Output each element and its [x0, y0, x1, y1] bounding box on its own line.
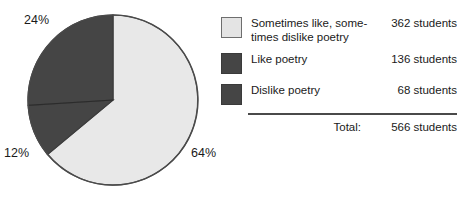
- legend-row-dislike: Dislike poetry 68 students: [221, 81, 457, 112]
- legend-row-sometimes: Sometimes like, some- times dislike poet…: [221, 14, 457, 50]
- legend-count-like: 136 students: [371, 50, 457, 67]
- pie-chart-figure: 24% 12% 64%: [0, 0, 232, 199]
- legend-label-like: Like poetry: [242, 50, 371, 67]
- legend-label-sometimes-line1: Sometimes like, some-: [251, 17, 367, 29]
- legend-total-count: 566 students: [371, 121, 457, 133]
- legend-swatch-sometimes-icon: [221, 17, 242, 38]
- pie-label-sometimes-percent: 64%: [191, 146, 216, 160]
- legend-total-divider: [248, 113, 457, 115]
- legend-count-sometimes: 362 students: [371, 14, 457, 31]
- legend-swatch-like-icon: [221, 53, 242, 74]
- legend-total-label: Total:: [334, 121, 372, 133]
- pie-label-like-percent: 24%: [24, 13, 49, 27]
- legend: Sometimes like, some- times dislike poet…: [221, 14, 457, 133]
- pie-label-dislike-percent: 12%: [4, 146, 29, 160]
- pie-slice-like: [28, 15, 113, 105]
- legend-swatch-dislike-icon: [221, 84, 242, 105]
- legend-label-dislike: Dislike poetry: [242, 81, 371, 98]
- legend-count-dislike: 68 students: [371, 81, 457, 98]
- legend-label-sometimes-line2: times dislike poetry: [251, 31, 371, 45]
- legend-label-sometimes: Sometimes like, some- times dislike poet…: [242, 14, 371, 44]
- pie-chart-svg: [0, 0, 232, 199]
- legend-row-like: Like poetry 136 students: [221, 50, 457, 81]
- legend-total-row: Total: 566 students: [221, 121, 457, 133]
